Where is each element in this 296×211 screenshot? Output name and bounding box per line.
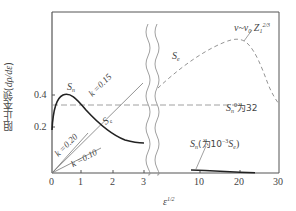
se-right-sub: e [177,56,180,62]
y-axis-title-text: 阻止本领 [3,91,14,131]
se-dashed-curve [158,39,279,104]
sn-curve [52,94,144,143]
y-tick-0.2: 0.2 [34,122,47,132]
x-axis-title: ε1/2 [163,194,175,207]
sn-low-curve [191,170,255,173]
v-label-exp: 2/3 [262,22,270,28]
sn-label-sub: n [72,87,75,93]
y-frac-denominator: dε [3,66,14,75]
y-axis-fraction: dρ/dε [3,66,14,88]
v-label-sub1: 1 [259,28,262,34]
v-label-mid: ~v [238,22,248,33]
y-axis-title: 阻止本领(dρ/dε) [3,62,17,131]
x-axis-title-exp: 1/2 [167,196,175,202]
x-tick-1: 1 [78,177,83,187]
sn0-annotation: Sn0为32 [226,100,257,116]
sn-curve-label: Sn [67,82,75,95]
x-tick-20: 20 [234,177,244,187]
axis-break-left [146,24,150,175]
sn0-sub: n [231,108,234,114]
velocity-annotation: v~v0 Z12/3 [234,20,270,36]
snlow-text: (为10 [198,139,222,149]
se-right-label: Se [172,51,180,64]
y-frac-numerator: dρ [3,78,14,88]
x-tick-0: 0 [49,177,54,187]
plot-frame [52,12,279,173]
snlow-close: ) [236,138,239,149]
sn-low-annotation: Sn(为10−3Se) [190,136,239,152]
x-tick-2: 2 [110,177,115,187]
x-tick-10: 10 [194,177,204,187]
x-tick-3: 3 [141,177,146,187]
k-015-line [52,83,143,173]
sn0-text: 为32 [237,103,257,113]
axis-break-right [155,24,159,175]
y-tick-0.4: 0.4 [34,90,47,100]
x-tick-30: 30 [273,177,283,187]
